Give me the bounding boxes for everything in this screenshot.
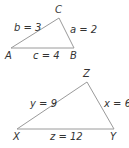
side-a-label: a = 2 (70, 24, 97, 35)
vertex-x-label: X (12, 131, 21, 142)
vertex-y-label: Y (110, 131, 117, 142)
vertex-c-label: C (55, 4, 62, 15)
vertex-b-label: B (70, 50, 77, 61)
side-y-label: y = 9 (29, 98, 57, 109)
triangle-xyz: X Y Z y = 9 x = 6 z = 12 (12, 68, 129, 142)
vertex-z-label: Z (82, 68, 91, 79)
diagram-canvas: A B C b = 3 a = 2 c = 4 X Y Z y = 9 x = … (0, 0, 129, 148)
side-z-label: z = 12 (49, 131, 83, 142)
side-b-label: b = 3 (14, 22, 41, 33)
side-c-label: c = 4 (33, 50, 60, 61)
vertex-a-label: A (4, 50, 12, 61)
triangle-abc: A B C b = 3 a = 2 c = 4 (4, 4, 97, 61)
side-x-label: x = 6 (103, 98, 129, 109)
